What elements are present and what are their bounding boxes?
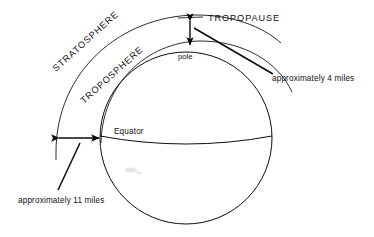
pole-thickness-label: approximately 4 miles [272, 74, 354, 83]
globe-circle [100, 52, 272, 224]
pole-thickness-leader [194, 28, 273, 74]
scan-speck [125, 168, 137, 173]
diagram-canvas: STRATOSPHERE TROPOSPHERE TROPOPAUSE pole… [0, 0, 374, 237]
atmosphere-diagram: STRATOSPHERE TROPOSPHERE TROPOPAUSE pole… [0, 0, 374, 237]
tropopause-label: TROPOPAUSE [208, 13, 280, 23]
tropopause-tick [178, 17, 203, 18]
pole-label: pole [178, 52, 192, 61]
equator-thickness-label: approximately 11 miles [18, 196, 104, 205]
equator-label: Equator [114, 127, 144, 136]
equator-thickness-leader [58, 143, 80, 190]
scan-speck [136, 172, 142, 175]
stratosphere-label: STRATOSPHERE [51, 9, 121, 73]
equator-line [100, 136, 272, 144]
